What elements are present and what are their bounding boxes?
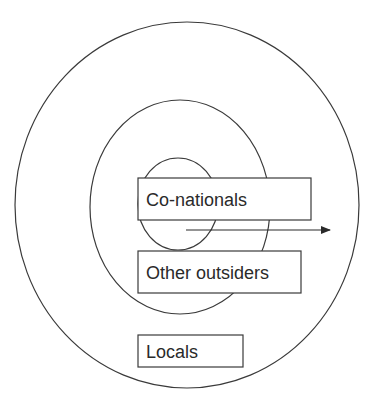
co-nationals-box: Co-nationals — [138, 178, 311, 220]
locals-box: Locals — [138, 335, 243, 367]
locals-label: Locals — [146, 342, 198, 362]
other-outsiders-box: Other outsiders — [138, 251, 301, 293]
diagram-canvas: Co-nationals Other outsiders Locals — [0, 0, 372, 402]
co-nationals-label: Co-nationals — [146, 190, 247, 210]
other-outsiders-label: Other outsiders — [146, 263, 269, 283]
